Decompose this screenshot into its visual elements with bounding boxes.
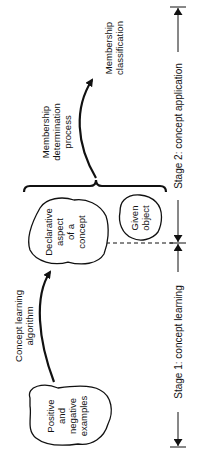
stage-axis: Stage 2: concept application Stage 1: co… xyxy=(170,7,186,447)
svg-text:Membership: Membership xyxy=(103,22,114,74)
concept-learning-diagram: Stage 2: concept application Stage 1: co… xyxy=(0,0,204,468)
svg-text:aspect: aspect xyxy=(54,218,65,246)
svg-text:process: process xyxy=(62,115,73,149)
svg-text:classification: classification xyxy=(114,21,125,75)
svg-text:algorithm: algorithm xyxy=(24,306,35,345)
stage1-label: Stage 1: concept learning xyxy=(173,285,184,398)
membership-label: Membership determination process xyxy=(40,103,73,161)
svg-text:of a: of a xyxy=(65,223,76,240)
grouping-brace xyxy=(24,180,166,192)
svg-text:Concept learning: Concept learning xyxy=(13,290,24,362)
svg-text:examples: examples xyxy=(78,395,89,436)
svg-text:Given: Given xyxy=(129,206,140,231)
membership-classification: Membership classification xyxy=(103,21,125,75)
svg-text:Declarative: Declarative xyxy=(43,208,54,256)
examples-text: Positive and negative examples xyxy=(45,395,89,436)
svg-text:Membership: Membership xyxy=(40,106,51,158)
svg-text:concept: concept xyxy=(76,215,87,249)
svg-text:object: object xyxy=(140,205,151,231)
stage2-label: Stage 2: concept application xyxy=(173,63,184,189)
svg-text:determination: determination xyxy=(51,103,62,161)
membership-arrow xyxy=(80,80,96,178)
svg-text:and: and xyxy=(56,408,67,424)
given-object-text: Given object xyxy=(129,205,151,231)
learning-arrow xyxy=(40,272,54,382)
svg-text:negative: negative xyxy=(67,398,78,434)
svg-text:Positive: Positive xyxy=(45,399,56,432)
learning-label: Concept learning algorithm xyxy=(13,290,35,362)
